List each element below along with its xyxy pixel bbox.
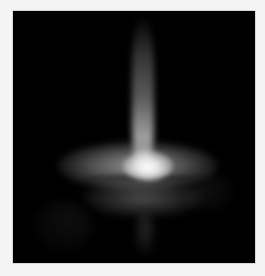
haze-left	[33, 201, 93, 251]
haze-right	[183, 171, 233, 211]
central-hotspot	[123, 151, 173, 181]
lower-tail	[133, 211, 157, 256]
pattern-image	[13, 11, 255, 263]
